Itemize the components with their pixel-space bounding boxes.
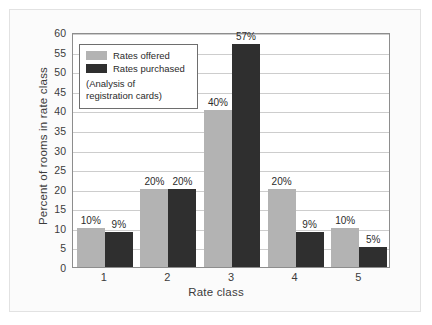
y-axis-tick-label: 15	[38, 203, 66, 215]
x-axis-tick-label: 3	[199, 271, 263, 283]
y-axis-tick-label: 20	[38, 184, 66, 196]
bar-purchased[interactable]	[105, 232, 133, 267]
bar-value-label: 20%	[160, 176, 204, 187]
bar-offered[interactable]	[204, 110, 232, 267]
x-axis-tick-labels: 12345	[72, 271, 390, 287]
bar-offered[interactable]	[77, 228, 105, 267]
legend-note: (Analysis of registration cards)	[86, 78, 191, 102]
bar-group: 20%9%	[264, 34, 328, 267]
bar-purchased[interactable]	[232, 44, 260, 267]
legend-item-rates-offered: Rates offered	[86, 50, 191, 61]
y-axis-tick-label: 55	[38, 47, 66, 59]
legend-swatch-rates-purchased	[86, 64, 107, 73]
bar-value-label: 57%	[224, 31, 268, 42]
bar-value-label: 10%	[323, 215, 367, 226]
y-axis-tick-label: 25	[38, 164, 66, 176]
legend-note-line-1: (Analysis of	[86, 78, 191, 90]
legend-swatch-rates-offered	[86, 51, 107, 60]
y-axis-tick-label: 10	[38, 223, 66, 235]
y-axis-tick-label: 35	[38, 125, 66, 137]
chart-legend: Rates offered Rates purchased (Analysis …	[79, 44, 198, 109]
y-axis-tick-label: 40	[38, 105, 66, 117]
bar-group: 40%57%	[200, 34, 264, 267]
y-axis-tick-label: 60	[38, 27, 66, 39]
legend-label-rates-purchased: Rates purchased	[113, 63, 185, 74]
x-axis-tick-label: 4	[263, 271, 327, 283]
x-axis-tick-label: 2	[135, 271, 199, 283]
y-axis-tick-label: 45	[38, 86, 66, 98]
bar-group: 10%5%	[327, 34, 391, 267]
y-axis-tick-label: 50	[38, 66, 66, 78]
y-axis-tick-label: 0	[38, 262, 66, 274]
bar-value-label: 5%	[351, 234, 395, 245]
y-axis-tick-labels: 051015202530354045505560	[38, 27, 66, 268]
x-axis-tick-label: 1	[72, 271, 136, 283]
x-axis-title: Rate class	[0, 286, 432, 298]
legend-label-rates-offered: Rates offered	[113, 50, 170, 61]
legend-note-line-2: registration cards)	[86, 90, 191, 102]
bar-purchased[interactable]	[168, 189, 196, 267]
bar-purchased[interactable]	[296, 232, 324, 267]
y-axis-tick-label: 5	[38, 242, 66, 254]
bar-offered[interactable]	[140, 189, 168, 267]
bar-purchased[interactable]	[359, 247, 387, 267]
y-axis-tick-label: 30	[38, 145, 66, 157]
bar-value-label: 9%	[97, 219, 141, 230]
legend-item-rates-purchased: Rates purchased	[86, 63, 191, 74]
x-axis-tick-label: 5	[326, 271, 390, 283]
bar-value-label: 20%	[260, 176, 304, 187]
